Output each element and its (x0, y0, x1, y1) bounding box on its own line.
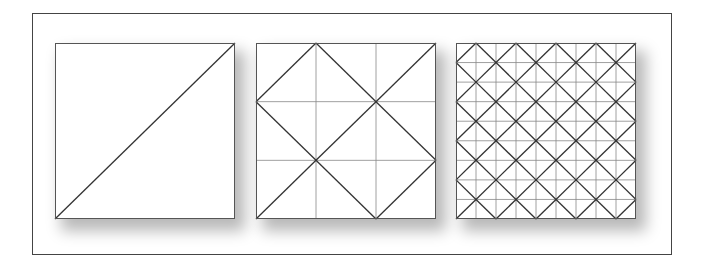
diagonal-line (476, 63, 496, 83)
diagonal-line (576, 121, 596, 141)
diagonal-line (496, 63, 516, 83)
diagonal-line (536, 180, 556, 200)
diagonal-line (476, 43, 496, 63)
diagonal-line (496, 102, 516, 122)
diagonal-line (536, 121, 556, 141)
diagonal-line (596, 102, 616, 122)
diagonal-line (476, 199, 496, 219)
diagonal-line (576, 82, 596, 102)
diagonal-line (576, 43, 596, 63)
panel-drawing (55, 43, 235, 219)
diagonal-line (616, 180, 636, 200)
diagonal-line (516, 63, 536, 83)
diagonal-line (556, 43, 576, 63)
diagonal-line (476, 102, 496, 122)
diagonal-line (576, 102, 596, 122)
diagonal-line (576, 199, 596, 219)
diagonal-line (456, 102, 476, 122)
diagonal-line (456, 43, 476, 63)
diagonal-line (536, 43, 556, 63)
diagonal-line (616, 43, 636, 63)
diagonal-line (556, 82, 576, 102)
diagonal-line (616, 82, 636, 102)
diagonal-line (456, 141, 476, 161)
diagonal-line (556, 121, 576, 141)
diagonal-line (316, 43, 376, 102)
diagonal-line (496, 141, 516, 161)
diagonal-line (456, 160, 476, 180)
diagonal-line (616, 63, 636, 83)
diagonal-line (316, 102, 376, 161)
diagonal-line (536, 82, 556, 102)
diagonal-line (476, 121, 496, 141)
diagonal-line (55, 43, 235, 219)
diagonal-line (496, 82, 516, 102)
diagonal-line (476, 82, 496, 102)
diagonal-line (596, 82, 616, 102)
diagonal-line (536, 160, 556, 180)
diagonal-line (476, 160, 496, 180)
diagonal-line (456, 180, 476, 200)
diagonal-line (496, 180, 516, 200)
diagonal-line (596, 121, 616, 141)
diagonal-line (256, 160, 316, 219)
diagonal-line (556, 180, 576, 200)
diagonal-line (376, 43, 436, 102)
diagonal-line (616, 102, 636, 122)
diagonal-line (556, 63, 576, 83)
diagonal-line (576, 180, 596, 200)
diagonal-line (476, 180, 496, 200)
diagonal-line (596, 43, 616, 63)
diagonal-line (596, 63, 616, 83)
diagonal-line (516, 141, 536, 161)
diagonal-line (616, 121, 636, 141)
diagonal-line (596, 160, 616, 180)
diagonal-line (536, 63, 556, 83)
diagonal-line (556, 141, 576, 161)
diagonal-line (596, 199, 616, 219)
diagonal-line (556, 199, 576, 219)
diagonal-line (456, 82, 476, 102)
diagonal-line (496, 160, 516, 180)
diagonal-line (616, 160, 636, 180)
diagonal-line (616, 199, 636, 219)
panel-drawing (256, 43, 436, 219)
diagonal-line (516, 102, 536, 122)
diagonal-line (256, 102, 316, 161)
diagonal-line (456, 63, 476, 83)
panel-drawing (456, 43, 636, 219)
diagonal-line (476, 141, 496, 161)
diagonal-line (516, 199, 536, 219)
diagonal-line (576, 63, 596, 83)
diagonal-line (516, 121, 536, 141)
diagonal-line (516, 160, 536, 180)
diagonal-line (496, 43, 516, 63)
diagonal-line (376, 160, 436, 219)
diagonal-line (596, 180, 616, 200)
diagonal-line (556, 160, 576, 180)
diagonal-line (536, 199, 556, 219)
diagonal-line (496, 199, 516, 219)
diagonal-line (456, 121, 476, 141)
diagonal-line (536, 141, 556, 161)
diagonal-line (496, 121, 516, 141)
diagonal-line (576, 141, 596, 161)
diagonal-line (596, 141, 616, 161)
diagonal-line (516, 43, 536, 63)
square-panel-9x9-diamond (456, 43, 636, 219)
diagonal-line (256, 43, 316, 102)
diagonal-line (536, 102, 556, 122)
diagonal-line (576, 160, 596, 180)
square-panel-3x3-diamond (256, 43, 436, 219)
diagonal-line (556, 102, 576, 122)
diagonal-line (516, 180, 536, 200)
diagonal-line (316, 160, 376, 219)
diagonal-line (516, 82, 536, 102)
square-panel-single-diagonal (55, 43, 235, 219)
diagonal-line (616, 141, 636, 161)
diagonal-line (456, 199, 476, 219)
diagonal-line (376, 102, 436, 161)
